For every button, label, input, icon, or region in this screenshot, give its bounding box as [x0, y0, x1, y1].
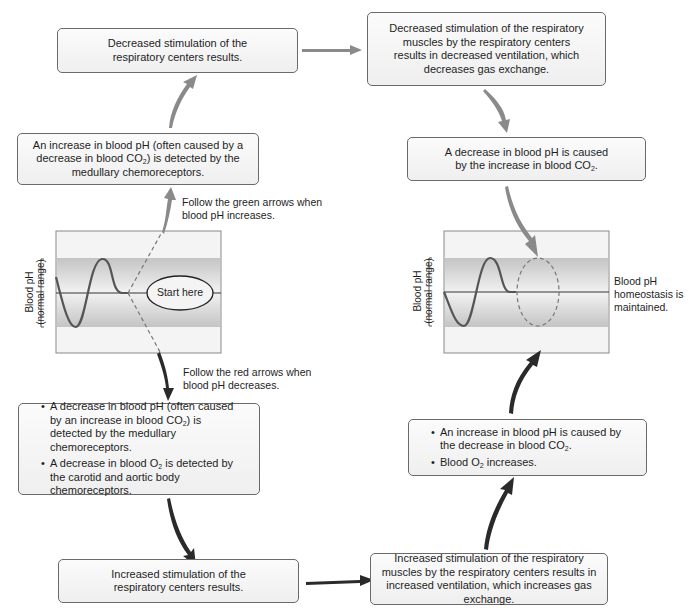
- text: A decrease in blood O: [50, 457, 158, 469]
- bullet-list: An increase in blood pH is caused by the…: [431, 426, 631, 470]
- left-graph-ylabel: Blood pH (normal range): [24, 252, 46, 332]
- text: Blood O: [440, 456, 480, 468]
- ylabel-line: (normal range): [423, 258, 434, 324]
- arrow-top-right-to-right-decrease: [483, 89, 510, 133]
- note-follow-red-arrows: Follow the red arrows when blood pH decr…: [183, 366, 328, 392]
- arrow-bottom-right-to-right-increase: [484, 477, 514, 550]
- arrow-right-increase-to-graph: [509, 350, 541, 414]
- diagram-canvas: [0, 0, 689, 615]
- box-ph-decrease-caused: A decrease in blood pH is caused by the …: [407, 137, 646, 181]
- text-line: An increase in blood pH (often caused by…: [33, 139, 243, 151]
- note-follow-green-arrows: Follow the green arrows when blood pH in…: [182, 196, 332, 222]
- bullet-item: A decrease in blood O2 is detected by th…: [41, 457, 241, 498]
- arrow-left-increase-to-top-left: [169, 75, 197, 128]
- note-homeostasis-maintained: Blood pH homeostasis is maintained.: [614, 275, 689, 314]
- ylabel-line: (normal range): [35, 259, 46, 325]
- text-line: .: [595, 159, 598, 171]
- box-ph-decrease-detected: A decrease in blood pH (often caused by …: [18, 403, 260, 495]
- box-text: Decreased stimulation of the respiratory…: [387, 22, 587, 76]
- text: increases.: [484, 456, 537, 468]
- arrow-bottom-left-to-bottom-right: [306, 575, 374, 586]
- box-ph-increase-caused: An increase in blood pH is caused by the…: [408, 419, 647, 476]
- text: A decrease in blood pH (often caused by …: [50, 400, 233, 426]
- box-increased-stimulation-centers: Increased stimulation of the respiratory…: [58, 559, 299, 603]
- box-text: A decrease in blood pH is caused by the …: [445, 146, 608, 173]
- bullet-item: A decrease in blood pH (often caused by …: [41, 400, 241, 454]
- ylabel-line: Blood pH: [24, 271, 35, 312]
- bullet-item: Blood O2 increases.: [431, 456, 631, 470]
- box-decreased-ventilation: Decreased stimulation of the respiratory…: [367, 12, 606, 86]
- start-here-label: Start here: [147, 286, 213, 298]
- arrow-left-decrease-to-bottom-left: [167, 498, 196, 566]
- text: An increase in blood pH is caused by the…: [440, 426, 621, 452]
- box-decreased-stimulation-centers: Decreased stimulation of the respiratory…: [57, 28, 298, 73]
- ylabel-line: Blood pH: [412, 270, 423, 311]
- text-line: medullary chemoreceptors.: [72, 166, 205, 178]
- text-line: by the increase in blood CO: [455, 159, 591, 171]
- text-line: ) is detected by the: [147, 152, 240, 164]
- bullet-list: A decrease in blood pH (often caused by …: [41, 400, 241, 498]
- box-ph-increase-detected: An increase in blood pH (often caused by…: [17, 133, 259, 185]
- arrow-graph-to-left-increase-box: [162, 187, 176, 234]
- right-ph-graph: [429, 231, 609, 353]
- text-line: decrease in blood CO: [36, 152, 142, 164]
- box-text: An increase in blood pH (often caused by…: [33, 139, 243, 180]
- right-graph-ylabel: Blood pH (normal range): [412, 251, 434, 331]
- arrow-graph-to-left-decrease-box: [157, 352, 174, 401]
- text-line: A decrease in blood pH is caused: [445, 146, 608, 158]
- box-increased-ventilation: Increased stimulation of the respiratory…: [370, 553, 608, 605]
- box-text: Increased stimulation of the respiratory…: [86, 568, 271, 595]
- box-text: Increased stimulation of the respiratory…: [381, 552, 597, 606]
- bullet-item: An increase in blood pH is caused by the…: [431, 426, 631, 453]
- arrow-top-left-to-top-right: [302, 45, 362, 55]
- text: .: [569, 439, 572, 451]
- box-text: Decreased stimulation of the respiratory…: [98, 37, 258, 64]
